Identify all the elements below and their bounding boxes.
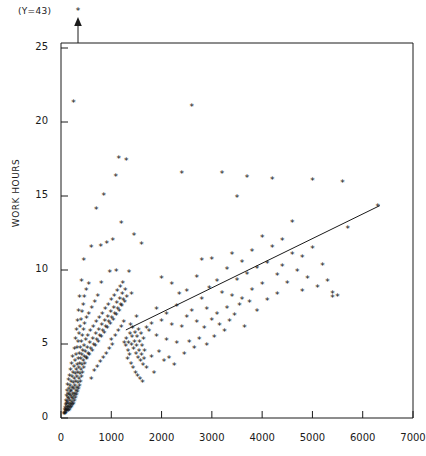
data-point-marker: * bbox=[182, 350, 187, 360]
data-point-marker: * bbox=[192, 344, 197, 354]
data-point-marker: * bbox=[98, 242, 103, 252]
data-point-marker: * bbox=[230, 250, 235, 260]
data-point-marker: * bbox=[89, 243, 94, 253]
data-point-marker: * bbox=[179, 323, 184, 333]
data-point-marker: * bbox=[225, 265, 230, 275]
data-point-marker: * bbox=[240, 295, 245, 305]
data-point-marker: * bbox=[169, 280, 174, 290]
data-point-marker: * bbox=[159, 274, 164, 284]
x-tick-label: 0 bbox=[58, 432, 64, 443]
data-point-marker: * bbox=[134, 313, 139, 323]
data-point-marker: * bbox=[200, 256, 205, 266]
axes-frame bbox=[61, 43, 413, 418]
data-point-marker: * bbox=[177, 290, 182, 300]
data-point-marker: * bbox=[205, 341, 210, 351]
offscale-arrow-head bbox=[74, 17, 82, 26]
data-point-marker: * bbox=[164, 336, 169, 346]
data-point-marker: * bbox=[189, 102, 194, 112]
data-point-marker: * bbox=[139, 240, 144, 250]
x-tick-marks bbox=[61, 411, 413, 418]
data-point-marker: * bbox=[149, 353, 154, 363]
data-point-marker: * bbox=[240, 258, 245, 268]
data-point-marker: * bbox=[111, 236, 116, 246]
data-point-marker: * bbox=[197, 335, 202, 345]
data-point-marker: * bbox=[215, 310, 220, 320]
data-point-marker: * bbox=[142, 347, 147, 357]
y-tick-marks bbox=[61, 48, 68, 418]
data-point-marker: * bbox=[235, 193, 240, 203]
data-point-marker: * bbox=[220, 169, 225, 179]
data-point-marker: * bbox=[345, 224, 350, 234]
data-point-marker: * bbox=[275, 271, 280, 281]
data-point-marker: * bbox=[95, 292, 100, 302]
data-point-marker: * bbox=[305, 274, 310, 284]
data-point-marker: * bbox=[200, 295, 205, 305]
data-point-marker: * bbox=[250, 247, 255, 257]
data-point-marker: * bbox=[81, 256, 86, 266]
data-point-marker: * bbox=[105, 239, 110, 249]
x-tick-label: 2000 bbox=[149, 432, 174, 443]
data-point-marker: * bbox=[285, 279, 290, 289]
data-point-marker: * bbox=[225, 304, 230, 314]
data-point-marker: * bbox=[99, 279, 104, 289]
data-point-marker: * bbox=[179, 169, 184, 179]
data-point-marker: * bbox=[222, 327, 227, 337]
regression-line bbox=[126, 206, 380, 330]
data-point-marker: * bbox=[114, 267, 119, 277]
offscale-annotation: (Y=43) bbox=[18, 6, 51, 16]
data-point-marker: * bbox=[290, 218, 295, 228]
y-tick-label: 20 bbox=[18, 115, 48, 126]
data-point-marker: * bbox=[124, 156, 129, 166]
data-point-marker: * bbox=[320, 261, 325, 271]
data-point-marker: * bbox=[117, 154, 122, 164]
data-point-marker: * bbox=[71, 98, 76, 108]
data-point-marker: * bbox=[245, 173, 250, 183]
x-tick-label: 7000 bbox=[400, 432, 425, 443]
data-point-marker: * bbox=[184, 287, 189, 297]
data-point-marker: * bbox=[114, 172, 119, 182]
data-point-marker: * bbox=[280, 262, 285, 272]
y-tick-label: 10 bbox=[18, 263, 48, 274]
data-point-marker: * bbox=[149, 320, 154, 330]
x-tick-label: 3000 bbox=[199, 432, 224, 443]
data-point-marker: * bbox=[260, 280, 265, 290]
data-point-marker: * bbox=[220, 289, 225, 299]
data-point-marker: * bbox=[310, 176, 315, 186]
x-tick-label: 1000 bbox=[99, 432, 124, 443]
data-point-marker: * bbox=[250, 286, 255, 296]
data-point-marker: * bbox=[169, 321, 174, 331]
data-point-marker: * bbox=[122, 318, 127, 328]
data-point-marker: * bbox=[280, 236, 285, 246]
y-tick-label: 25 bbox=[18, 41, 48, 52]
offscale-marker-group: * bbox=[74, 6, 82, 43]
data-point-marker: * bbox=[230, 292, 235, 302]
data-point-marker: * bbox=[235, 276, 240, 286]
data-point-marker: * bbox=[110, 341, 115, 351]
data-point-marker: * bbox=[174, 339, 179, 349]
data-point-marker: * bbox=[144, 364, 149, 374]
data-point-marker: * bbox=[255, 307, 260, 317]
data-point-marker: * bbox=[295, 267, 300, 277]
data-point-marker: * bbox=[260, 233, 265, 243]
data-point-marker: * bbox=[108, 268, 113, 278]
data-point-marker: * bbox=[232, 311, 237, 321]
data-point-marker: * bbox=[140, 378, 145, 388]
data-point-marker: * bbox=[154, 332, 159, 342]
data-point-marker: * bbox=[335, 292, 340, 302]
data-point-marker: * bbox=[189, 307, 194, 317]
data-point-marker: * bbox=[141, 335, 146, 345]
data-point-marker: * bbox=[119, 219, 124, 229]
data-point-marker: * bbox=[94, 205, 99, 215]
data-point-marker: * bbox=[242, 323, 247, 333]
data-point-marker: * bbox=[247, 298, 252, 308]
data-point-marker: * bbox=[195, 273, 200, 283]
data-point-marker: * bbox=[127, 268, 132, 278]
data-point-marker: * bbox=[210, 255, 215, 265]
data-point-marker: * bbox=[270, 243, 275, 253]
data-point-marker: * bbox=[275, 290, 280, 300]
data-point-marker: * bbox=[270, 175, 275, 185]
data-point-marker: * bbox=[325, 277, 330, 287]
y-tick-label: 5 bbox=[18, 337, 48, 348]
